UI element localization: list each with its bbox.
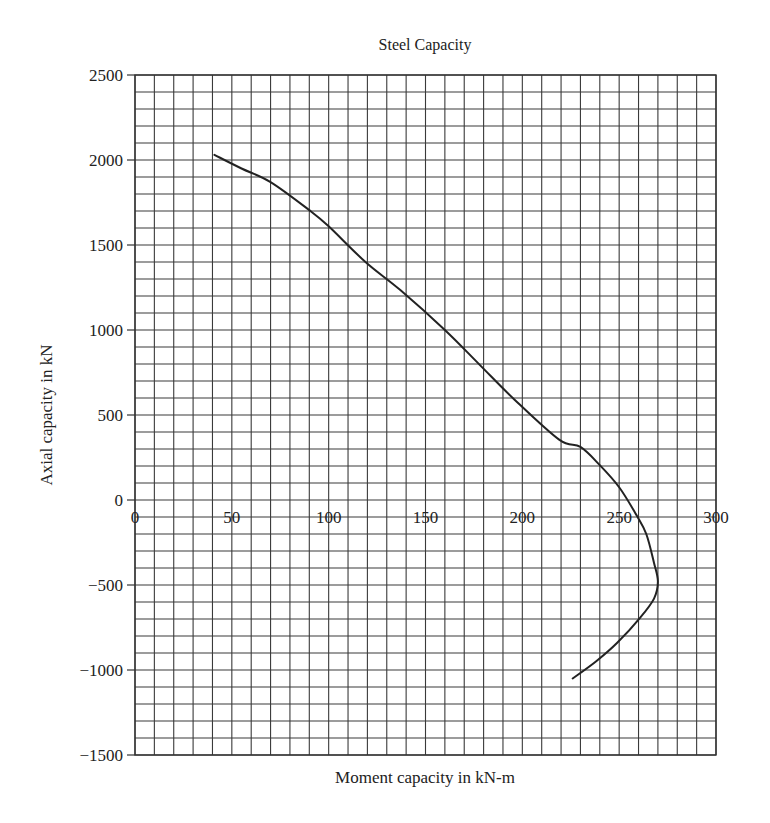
plot-grid (135, 75, 716, 755)
y-tick-label: 0 (115, 491, 124, 510)
x-tick-label: 250 (606, 508, 632, 527)
x-tick-label: 300 (703, 508, 729, 527)
x-tick-label: 0 (131, 508, 140, 527)
y-tick-label: 1500 (89, 236, 123, 255)
capacity-curve (214, 155, 657, 679)
y-tick-label: 2500 (89, 66, 123, 85)
steel-capacity-chart: Steel Capacity 25002000150010005000−500−… (0, 0, 770, 823)
y-tick-label: −1000 (79, 661, 123, 680)
x-tick-label: 50 (223, 508, 240, 527)
x-tick-label: 200 (510, 508, 536, 527)
y-tick-label: 500 (98, 406, 124, 425)
y-tick-label: −500 (88, 576, 123, 595)
y-tick-label: 2000 (89, 151, 123, 170)
x-tick-label: 150 (413, 508, 439, 527)
chart-title: Steel Capacity (379, 36, 472, 54)
x-tick-label: 100 (316, 508, 342, 527)
y-axis-label: Axial capacity in kN (37, 344, 56, 485)
y-tick-label: −1500 (79, 746, 123, 765)
x-axis-label: Moment capacity in kN-m (335, 768, 515, 787)
y-tick-label: 1000 (89, 321, 123, 340)
y-axis-ticks: 25002000150010005000−500−1000−1500 (79, 66, 135, 765)
